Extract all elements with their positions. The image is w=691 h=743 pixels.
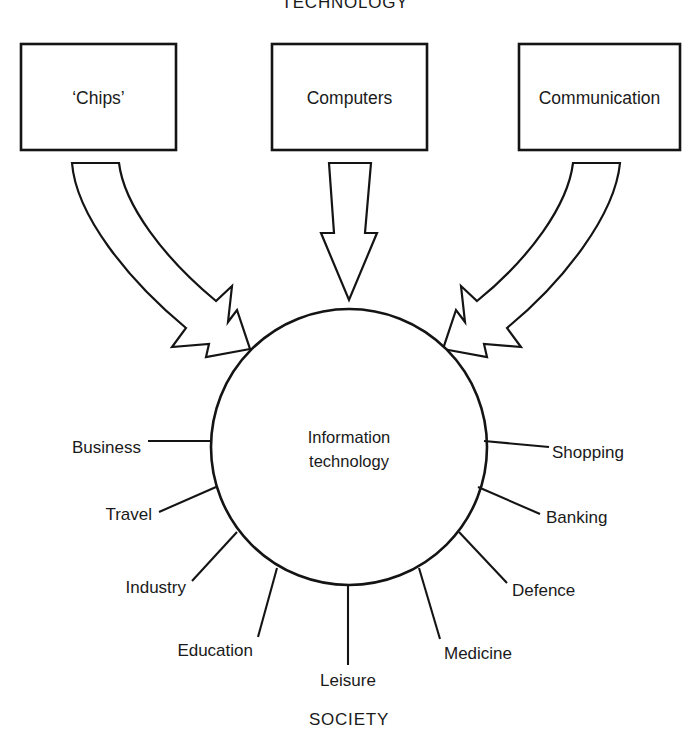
spoke-travel[interactable]: Travel xyxy=(105,487,216,524)
spoke-industry[interactable]: Industry xyxy=(126,532,237,597)
spoke-shopping-line xyxy=(484,441,549,447)
spoke-travel-label: Travel xyxy=(105,505,152,524)
source-box-computers[interactable]: Computers xyxy=(272,44,427,150)
top-heading: TECHNOLOGY xyxy=(281,0,408,12)
source-box-communication-label: Communication xyxy=(539,88,661,108)
spoke-banking-line xyxy=(478,487,540,514)
spoke-shopping[interactable]: Shopping xyxy=(484,441,624,462)
spoke-business-label: Business xyxy=(72,438,141,457)
spoke-defence-label: Defence xyxy=(512,581,575,600)
spoke-travel-line xyxy=(159,487,216,512)
spoke-education[interactable]: Education xyxy=(177,568,277,660)
arrow-communication-to-hub xyxy=(443,163,620,357)
hub-circle xyxy=(211,309,487,585)
hub-circle-group[interactable]: Information technology xyxy=(211,309,487,585)
source-box-communication[interactable]: Communication xyxy=(519,44,680,150)
source-box-chips[interactable]: ‘Chips’ xyxy=(21,44,176,150)
arrow-computers-to-hub xyxy=(321,163,377,300)
arrow-chips-to-hub xyxy=(72,163,250,357)
spoke-defence-line xyxy=(459,532,507,583)
spoke-education-label: Education xyxy=(177,641,253,660)
source-box-computers-label: Computers xyxy=(307,88,393,108)
spoke-banking[interactable]: Banking xyxy=(478,487,607,527)
diagram-root: TECHNOLOGY ‘Chips’ Computers Communicati… xyxy=(0,0,691,743)
spoke-medicine-line xyxy=(419,568,440,639)
spoke-leisure[interactable]: Leisure xyxy=(320,585,376,690)
bottom-heading: SOCIETY xyxy=(309,710,389,729)
spoke-leisure-label: Leisure xyxy=(320,671,376,690)
hub-label-line2: technology xyxy=(309,452,390,470)
spoke-industry-line xyxy=(192,532,237,581)
spoke-banking-label: Banking xyxy=(546,508,607,527)
spoke-medicine-label: Medicine xyxy=(444,644,512,663)
spoke-defence[interactable]: Defence xyxy=(459,532,575,600)
source-box-chips-label: ‘Chips’ xyxy=(72,88,125,108)
spoke-education-line xyxy=(258,568,277,637)
spoke-medicine[interactable]: Medicine xyxy=(419,568,512,663)
spoke-business[interactable]: Business xyxy=(72,438,211,457)
spoke-shopping-label: Shopping xyxy=(552,443,624,462)
diagram-canvas: TECHNOLOGY ‘Chips’ Computers Communicati… xyxy=(0,0,691,743)
hub-label-line1: Information xyxy=(308,428,391,446)
spoke-industry-label: Industry xyxy=(126,578,187,597)
